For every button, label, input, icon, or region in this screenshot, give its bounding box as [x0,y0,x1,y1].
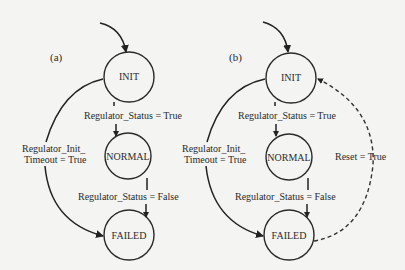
transition-label-timeout-line2-b: Timeout = True [184,154,247,165]
state-diagram-canvas: (a) INIT Regulator_Status = True NORMAL … [0,0,405,270]
state-label: INIT [119,71,139,82]
transition-label-init-normal-b: Regulator_Status = True [238,110,336,121]
state-label: NORMAL [106,151,149,162]
initial-transition-arrow-a [100,23,126,52]
transition-label-timeout-line1-b: Regulator_Init_ [182,143,246,154]
state-label: INIT [281,72,301,83]
diagram-a: (a) INIT Regulator_Status = True NORMAL … [22,23,182,260]
state-failed-b: FAILED [264,210,314,260]
state-label: NORMAL [267,152,310,163]
transition-label-reset-b: Reset = True [335,151,387,162]
state-failed-a: FAILED [104,210,154,260]
panel-label-a: (a) [50,51,63,64]
initial-transition-arrow-b [263,22,288,52]
panel-label-b: (b) [229,51,242,64]
diagram-b: (b) INIT Regulator_Status = True NORMAL … [182,22,387,260]
state-label: FAILED [112,230,147,241]
transition-label-timeout-line2-a: Timeout = True [24,154,87,165]
transition-label-normal-failed-b: Regulator_Status = False [235,191,336,202]
state-normal-b: NORMAL [266,134,312,180]
transition-label-normal-failed-a: Regulator_Status = False [78,191,179,202]
state-init-b: INIT [266,53,316,103]
transition-label-timeout-line1-a: Regulator_Init_ [22,143,86,154]
transition-label-init-normal-a: Regulator_Status = True [84,110,182,121]
state-label: FAILED [272,230,307,241]
state-init-a: INIT [104,52,154,102]
state-normal-a: NORMAL [105,133,151,179]
